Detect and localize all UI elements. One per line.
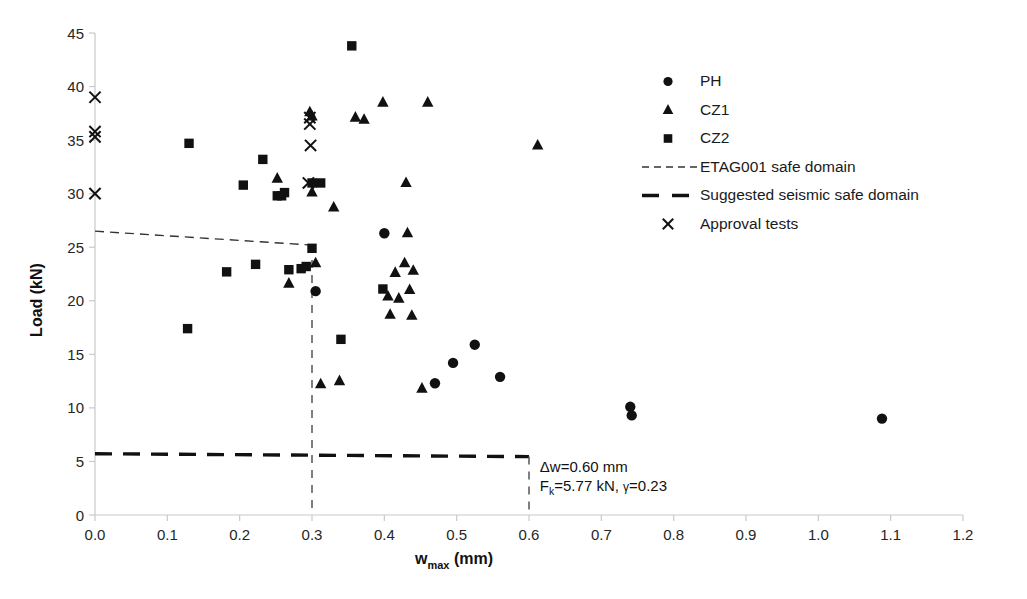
series-cz1-point (334, 375, 345, 386)
series-cz1-point (422, 96, 433, 107)
legend-item-ph: PH (663, 72, 721, 89)
x-tick-label: 0.6 (519, 526, 540, 543)
series-cz2-point (184, 139, 193, 148)
series-cz1-point (350, 111, 361, 122)
x-axis-title-text: wmax (mm) (414, 550, 493, 571)
legend-item-approval-tests: Approval tests (663, 215, 799, 232)
reference-lines (95, 231, 529, 515)
series-ph (310, 228, 887, 424)
x-tick-label: 1.1 (880, 526, 901, 543)
x-tick-label: 0.7 (591, 526, 612, 543)
y-tick-label: 20 (67, 292, 84, 309)
series-cz2-point (251, 260, 260, 269)
series-cz1-point (283, 277, 294, 288)
series-cz2-point (258, 155, 267, 164)
legend-square-icon (664, 134, 673, 143)
y-tick-label: 0 (76, 507, 84, 524)
legend-item-cz1: CZ1 (663, 101, 730, 118)
series-cz1-point (328, 201, 339, 212)
series-ph-point (430, 378, 440, 388)
x-tick-label: 0.5 (446, 526, 467, 543)
series-cz2-point (239, 180, 248, 189)
series-cz1-point (393, 292, 404, 303)
series-cz2-point (183, 324, 192, 333)
y-tick-label: 35 (67, 132, 84, 149)
legend-triangle-icon (663, 104, 674, 114)
series-approval-tests (89, 92, 316, 200)
series-ph-point (495, 372, 505, 382)
series-cz1-point (400, 176, 411, 187)
x-tick-label: 0.4 (374, 526, 395, 543)
legend-item-cz2: CZ2 (664, 129, 730, 146)
legend-label-text: Suggested seismic safe domain (700, 186, 919, 203)
legend-label-text: CZ2 (700, 129, 729, 146)
x-axis-tick-labels: 0.00.10.20.30.40.50.60.70.80.91.01.11.2 (85, 515, 974, 543)
legend-item-suggested-seismic-safe-domain: Suggested seismic safe domain (642, 186, 919, 203)
y-axis-title-text: Load (kN) (28, 263, 45, 337)
legend-circle-icon (663, 77, 672, 86)
annotation-fk-gamma: Fk=5.77 kN, γ=0.23 (540, 477, 667, 497)
legend-label-text: Approval tests (700, 215, 798, 232)
ref-line-etag001-safe-domain (95, 231, 312, 245)
scatter-chart: 051015202530354045 0.00.10.20.30.40.50.6… (0, 0, 1027, 599)
y-axis-title: Load (kN) (28, 263, 45, 337)
series-cz2-point (316, 178, 325, 187)
series-cz1-point (402, 227, 413, 238)
series-cz1-point (315, 378, 326, 389)
legend-item-etag001-safe-domain: ETAG001 safe domain (642, 158, 856, 175)
series-cz2-point (347, 41, 356, 50)
y-tick-label: 15 (67, 346, 84, 363)
x-tick-label: 0.2 (229, 526, 250, 543)
x-tick-label: 1.2 (953, 526, 974, 543)
series-cz1-point (389, 266, 400, 277)
x-axis-title-unit: (mm) (449, 550, 493, 567)
series-ph-point (310, 286, 320, 296)
y-axis-tick-labels: 051015202530354045 (67, 25, 95, 524)
series-ph-point (470, 339, 480, 349)
y-tick-label: 5 (76, 453, 84, 470)
legend: PHCZ1CZ2ETAG001 safe domainSuggested sei… (642, 72, 919, 232)
series-ph-point (448, 358, 458, 368)
series-cz2-point (307, 244, 316, 253)
legend-label-text: CZ1 (700, 101, 729, 118)
series-cz2-point (280, 188, 289, 197)
x-axis-title-subscript: max (427, 559, 450, 571)
y-tick-label: 10 (67, 399, 84, 416)
legend-label-text: ETAG001 safe domain (700, 158, 856, 175)
annotations: Δw=0.60 mmFk=5.77 kN, γ=0.23 (540, 458, 667, 497)
x-tick-label: 0.0 (85, 526, 106, 543)
series-cz2-point (378, 284, 387, 293)
series-cz2-point (284, 265, 293, 274)
x-axis-title: wmax (mm) (414, 550, 493, 571)
series-cz1-point (406, 309, 417, 320)
plot-canvas: 051015202530354045 0.00.10.20.30.40.50.6… (0, 0, 1027, 599)
y-tick-label: 45 (67, 25, 84, 42)
series-ph-point (877, 413, 887, 423)
x-tick-label: 0.8 (663, 526, 684, 543)
series-cz1-point (358, 113, 369, 124)
series-cz1-point (399, 257, 410, 268)
series-cz1-point (404, 283, 415, 294)
series-cz2-point (222, 267, 231, 276)
x-tick-label: 0.9 (736, 526, 757, 543)
series-ph-point (627, 410, 637, 420)
x-tick-label: 1.0 (808, 526, 829, 543)
series-cz2-point (336, 335, 345, 344)
legend-label-text: PH (700, 72, 722, 89)
series-cz1-point (272, 172, 283, 183)
series-cz1-point (384, 308, 395, 319)
series-ph-point (379, 228, 389, 238)
y-tick-label: 25 (67, 239, 84, 256)
x-tick-label: 0.1 (157, 526, 178, 543)
x-tick-label: 0.3 (302, 526, 323, 543)
series-cz2-point (302, 262, 311, 271)
x-axis-title-base: w (414, 550, 428, 567)
series-cz1-point (416, 382, 427, 393)
y-tick-label: 40 (67, 78, 84, 95)
y-tick-label: 30 (67, 185, 84, 202)
series-cz1-point (377, 96, 388, 107)
series-cz1-point (532, 139, 543, 150)
series-cz2 (183, 41, 388, 344)
annotation-delta-w: Δw=0.60 mm (540, 458, 628, 475)
data-markers (89, 41, 887, 424)
